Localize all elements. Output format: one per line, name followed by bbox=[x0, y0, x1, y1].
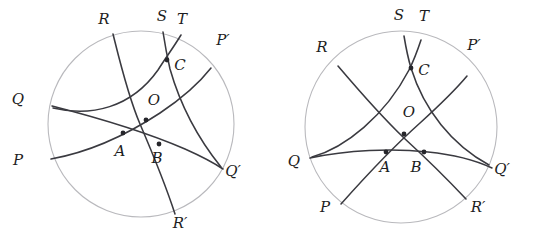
boundary-point-label-p: P bbox=[12, 151, 24, 169]
boundary-point-label-t: T bbox=[177, 10, 188, 28]
right-panel: STRP′QQ′PR′COAB bbox=[288, 6, 511, 223]
boundary-point-label-qp: Q′ bbox=[494, 160, 510, 178]
boundary-point-label-r: R bbox=[315, 38, 327, 56]
vertex-point-a bbox=[384, 150, 389, 155]
boundary-point-label-pp: P′ bbox=[466, 36, 481, 54]
interior-point-label-c: C bbox=[174, 56, 186, 74]
boundary-point-label-rp: R′ bbox=[172, 214, 188, 232]
boundary-point-label-pp: P′ bbox=[215, 31, 230, 49]
curve-T bbox=[53, 35, 181, 111]
left-panel: RSTP′QPQ′R′COAB bbox=[12, 7, 242, 232]
hyperbolic-geometry-figure: RSTP′QPQ′R′COABSTRP′QQ′PR′COAB bbox=[0, 0, 539, 236]
interior-point-label-a: A bbox=[378, 158, 391, 176]
vertex-point-c bbox=[165, 58, 170, 63]
boundary-point-label-r: R bbox=[97, 10, 109, 28]
boundary-point-label-q: Q bbox=[288, 152, 300, 170]
boundary-point-label-p: P bbox=[319, 198, 331, 216]
boundary-point-label-qp: Q′ bbox=[225, 162, 241, 180]
curve-PP-prime bbox=[341, 76, 467, 204]
boundary-point-label-s: S bbox=[157, 7, 167, 25]
figure-canvas: RSTP′QPQ′R′COABSTRP′QQ′PR′COAB bbox=[0, 0, 539, 236]
vertex-point-o bbox=[402, 132, 407, 137]
vertex-point-c bbox=[409, 66, 414, 71]
interior-point-label-b: B bbox=[150, 149, 162, 167]
interior-point-label-o: O bbox=[148, 91, 160, 109]
vertex-point-o bbox=[144, 118, 149, 123]
interior-point-label-o: O bbox=[403, 103, 415, 121]
interior-point-label-c: C bbox=[418, 61, 430, 79]
curve-QQ-prime bbox=[52, 106, 223, 169]
curve-S bbox=[404, 36, 489, 165]
interior-point-label-a: A bbox=[113, 142, 126, 160]
vertex-point-b bbox=[422, 150, 427, 155]
boundary-point-label-q: Q bbox=[12, 90, 24, 108]
curve-S bbox=[163, 32, 221, 167]
boundary-point-label-t: T bbox=[419, 7, 430, 25]
vertex-point-a bbox=[121, 131, 126, 136]
interior-point-label-b: B bbox=[409, 158, 421, 176]
boundary-point-label-rp: R′ bbox=[470, 198, 486, 216]
disk-boundary-circle bbox=[305, 31, 497, 223]
curve-QQ-prime bbox=[310, 150, 492, 168]
vertex-point-b bbox=[157, 142, 162, 147]
boundary-point-label-s: S bbox=[394, 6, 404, 24]
